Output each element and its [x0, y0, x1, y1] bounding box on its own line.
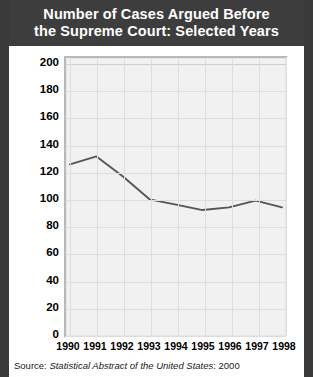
y-axis-tick-label: 60 [17, 247, 59, 258]
x-axis-tick-label: 1994 [164, 340, 187, 353]
gridline-vertical [286, 58, 287, 336]
gridline-vertical [178, 58, 179, 336]
gridline-vertical [205, 58, 206, 336]
gridline-horizontal [66, 91, 286, 92]
source-note: Source: Statistical Abstract of the Unit… [14, 360, 304, 372]
x-axis: 199019911992199319941995199619971998 [64, 340, 288, 356]
chart-figure: Number of Cases Argued Before the Suprem… [0, 0, 313, 377]
right-border-rail [304, 0, 313, 377]
source-prefix: Source: [14, 360, 47, 371]
x-axis-tick-label: 1998 [272, 340, 295, 353]
gridline-vertical [259, 58, 260, 336]
x-axis-tick-label: 1997 [245, 340, 268, 353]
plot-inner [66, 58, 286, 336]
gridline-horizontal [66, 254, 286, 255]
gridline-vertical [232, 58, 233, 336]
y-axis-tick-label: 120 [17, 165, 59, 176]
gridline-vertical [97, 58, 98, 336]
x-axis-tick-label: 1992 [110, 340, 133, 353]
y-axis-tick-label: 100 [17, 193, 59, 204]
source-publication: Statistical Abstract of the United State… [49, 360, 213, 371]
gridline-horizontal [66, 336, 286, 337]
y-axis-tick-label: 140 [17, 138, 59, 149]
x-axis-tick-label: 1991 [83, 340, 106, 353]
title-line-1: Number of Cases Argued Before [43, 6, 269, 22]
title-line-2: the Supreme Court: Selected Years [34, 23, 279, 39]
gridline-horizontal [66, 118, 286, 119]
x-axis-tick-label: 1993 [137, 340, 160, 353]
gridline-vertical [151, 58, 152, 336]
series-line [66, 58, 286, 336]
y-axis-tick-label: 200 [17, 57, 59, 68]
chart-title-bar: Number of Cases Argued Before the Suprem… [9, 0, 304, 46]
gridline-horizontal [66, 309, 286, 310]
y-axis: 020406080100120140160180200 [9, 56, 59, 338]
gridline-horizontal [66, 146, 286, 147]
y-axis-tick-label: 80 [17, 220, 59, 231]
gridline-horizontal [66, 200, 286, 201]
y-axis-tick-label: 160 [17, 111, 59, 122]
y-axis-tick-label: 40 [17, 274, 59, 285]
x-axis-tick-label: 1995 [191, 340, 214, 353]
y-axis-tick-label: 180 [17, 84, 59, 95]
y-axis-tick-label: 20 [17, 301, 59, 312]
gridline-horizontal [66, 227, 286, 228]
left-border-rail [0, 0, 9, 377]
chart-card: 020406080100120140160180200 199019911992… [9, 46, 304, 356]
gridline-vertical [124, 58, 125, 336]
page-title: Number of Cases Argued Before the Suprem… [34, 6, 279, 40]
gridline-horizontal [66, 64, 286, 65]
source-suffix: : 2000 [213, 360, 239, 371]
gridline-horizontal [66, 173, 286, 174]
gridline-vertical [70, 58, 71, 336]
y-axis-tick-label: 0 [17, 329, 59, 340]
x-axis-tick-label: 1990 [56, 340, 79, 353]
data-line [70, 156, 282, 210]
x-axis-tick-label: 1996 [218, 340, 241, 353]
gridline-horizontal [66, 282, 286, 283]
plot-area [64, 56, 288, 338]
